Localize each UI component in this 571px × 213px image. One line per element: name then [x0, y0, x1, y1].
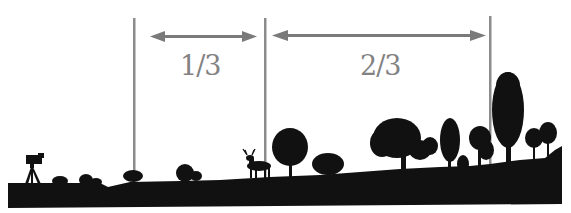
tree	[370, 118, 438, 170]
tree	[440, 118, 469, 173]
tree	[272, 128, 308, 180]
camera-tripod	[25, 153, 44, 184]
scene-illustration	[0, 0, 571, 213]
cypress-tree	[492, 72, 524, 165]
shrub	[123, 170, 143, 182]
depth-of-field-diagram: 1/3 2/3	[0, 0, 571, 213]
arrow-one-third	[150, 31, 257, 42]
guide-lines	[133, 16, 492, 183]
shrub	[52, 176, 68, 186]
shrub	[190, 171, 202, 181]
label-two-thirds: 2/3	[360, 50, 400, 81]
label-one-third: 1/3	[180, 50, 220, 81]
left-guide-line	[133, 18, 136, 183]
tree	[312, 153, 344, 176]
middle-guide-line	[264, 18, 267, 178]
deer	[243, 149, 271, 178]
landscape-silhouette	[8, 72, 562, 208]
arrow-two-thirds	[272, 30, 486, 41]
shrub	[90, 178, 102, 186]
